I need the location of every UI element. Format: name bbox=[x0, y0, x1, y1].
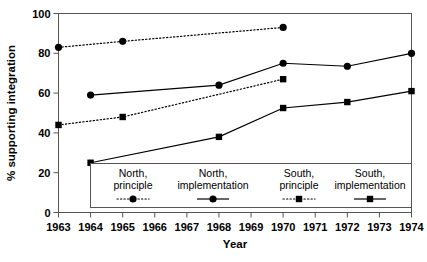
series-2 bbox=[87, 50, 415, 99]
data-point-marker bbox=[408, 88, 414, 94]
legend-label-line2: implementation bbox=[334, 179, 405, 191]
data-point-marker bbox=[55, 122, 61, 128]
chart-container: 100806040200 196319641965196619671968196… bbox=[0, 0, 427, 262]
x-axis-tick-label: 1970 bbox=[271, 221, 295, 233]
data-point-marker bbox=[119, 114, 125, 120]
legend-sample-marker bbox=[209, 195, 216, 202]
x-axis-tick-label: 1969 bbox=[239, 221, 263, 233]
data-point-marker bbox=[119, 38, 126, 45]
x-axis-tick-label: 1973 bbox=[367, 221, 391, 233]
x-axis-tick-label: 1964 bbox=[78, 221, 103, 233]
legend-sample-marker bbox=[296, 196, 302, 202]
data-point-marker bbox=[216, 134, 222, 140]
legend-sample-marker bbox=[129, 195, 136, 202]
y-axis-tick-label: 20 bbox=[38, 167, 50, 179]
data-point-marker bbox=[280, 76, 286, 82]
x-axis-tick-label: 1972 bbox=[335, 221, 359, 233]
data-point-marker bbox=[408, 50, 415, 57]
data-point-marker bbox=[280, 24, 287, 31]
y-axis-title: % supporting integration bbox=[5, 45, 17, 181]
y-axis-tick-label: 60 bbox=[38, 87, 50, 99]
legend-label-line1: South, bbox=[355, 167, 385, 179]
legend-label-line2: implementation bbox=[177, 179, 248, 191]
x-axis-tick-label: 1966 bbox=[143, 221, 167, 233]
data-point-marker bbox=[280, 105, 286, 111]
x-axis-tick-labels: 1963196419651966196719681969197019711972… bbox=[46, 221, 424, 233]
data-point-marker bbox=[344, 99, 350, 105]
legend-label-line2: principle bbox=[279, 179, 318, 191]
y-axis-tick-label: 80 bbox=[38, 47, 50, 59]
series-3 bbox=[55, 76, 286, 128]
x-axis-tick-label: 1974 bbox=[399, 221, 424, 233]
data-point-marker bbox=[215, 82, 222, 89]
x-axis-tick-label: 1967 bbox=[175, 221, 199, 233]
data-point-marker bbox=[344, 63, 351, 70]
y-axis-tick-label: 100 bbox=[32, 8, 50, 20]
legend-label-line1: North, bbox=[119, 167, 148, 179]
x-axis-tick-label: 1971 bbox=[303, 221, 327, 233]
x-axis-tick-label: 1968 bbox=[207, 221, 231, 233]
series-line bbox=[59, 79, 284, 125]
y-axis-ticks bbox=[54, 14, 59, 213]
legend-label-line2: principle bbox=[113, 179, 152, 191]
y-axis-tick-label: 0 bbox=[44, 207, 50, 219]
x-axis-tick-label: 1963 bbox=[46, 221, 70, 233]
y-axis-tick-label: 40 bbox=[38, 127, 50, 139]
x-axis-tick-label: 1965 bbox=[110, 221, 134, 233]
x-axis-ticks bbox=[59, 213, 412, 218]
series-line bbox=[59, 27, 284, 47]
series-4 bbox=[87, 88, 414, 166]
legend-label-line1: South, bbox=[284, 167, 314, 179]
legend-sample-marker bbox=[367, 196, 373, 202]
data-series-layer bbox=[55, 24, 415, 166]
series-line bbox=[91, 91, 412, 163]
data-point-marker bbox=[280, 60, 287, 67]
data-point-marker bbox=[87, 91, 94, 98]
x-axis-title: Year bbox=[223, 238, 248, 250]
series-1 bbox=[55, 24, 287, 51]
data-point-marker bbox=[55, 44, 62, 51]
legend-label-line1: North, bbox=[199, 167, 228, 179]
series-line bbox=[91, 53, 412, 95]
y-axis-tick-labels: 100806040200 bbox=[32, 8, 50, 219]
chart-legend: North,principleNorth,implementationSouth… bbox=[91, 164, 412, 208]
line-chart: 100806040200 196319641965196619671968196… bbox=[0, 0, 427, 262]
